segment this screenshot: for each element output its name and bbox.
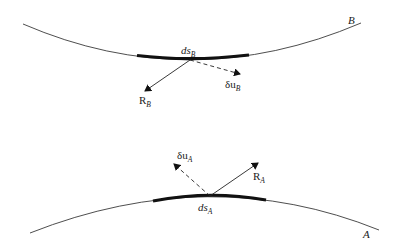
reaction-vector-b (145, 60, 190, 91)
body-b-label: B (348, 15, 355, 26)
reaction-vector-a (210, 163, 258, 196)
delta-u-a-label: δuA (177, 150, 192, 161)
delta-u-b-label: δuB (225, 79, 240, 90)
virtual-displacement-vector-a (174, 164, 210, 196)
ds-a-label: dsA (198, 202, 212, 213)
r-b-label: RB (139, 95, 151, 106)
body-a-label: A (363, 229, 370, 240)
ds-b-label: dsB (181, 45, 195, 56)
r-a-label: RA (253, 171, 265, 182)
virtual-displacement-vector-b (190, 60, 240, 74)
